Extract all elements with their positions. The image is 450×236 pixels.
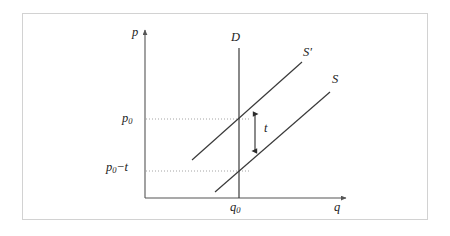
p0mt-tax: t <box>125 160 128 174</box>
minus-sign: − <box>117 160 125 174</box>
supply-after-tax-label: S′ <box>303 46 312 59</box>
y-tick-label-p0-minus-t: p0−t <box>106 161 128 175</box>
q0-subscript: 0 <box>236 205 240 215</box>
x-axis-label: q <box>334 201 340 214</box>
tax-wedge-label: t <box>264 122 267 135</box>
x-tick-label-q0: q0 <box>230 201 241 215</box>
y-tick-label-p0: p0 <box>122 112 133 126</box>
prime-mark: ′ <box>309 45 312 59</box>
y-axis-label: p <box>132 26 138 39</box>
supply-before-tax-label: S <box>332 73 338 86</box>
supply-curve-after-tax <box>192 62 302 160</box>
p0mt-subscript: 0 <box>112 165 116 175</box>
p0-subscript: 0 <box>128 116 132 126</box>
figure-canvas: p q D S′ S p0 p0−t q0 t <box>0 0 450 236</box>
demand-curve-label: D <box>231 31 240 44</box>
diagram-svg <box>0 0 450 236</box>
supply-curve-before-tax <box>215 92 330 192</box>
